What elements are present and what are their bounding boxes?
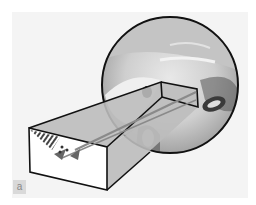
diagram-illustration (0, 0, 256, 205)
panel-label: a (13, 180, 26, 194)
figure: a (0, 0, 256, 205)
